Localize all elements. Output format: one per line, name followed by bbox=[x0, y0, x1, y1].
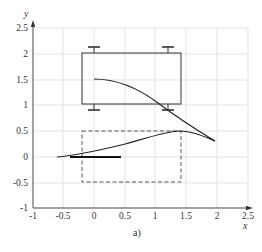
y-tick: -1 bbox=[20, 203, 28, 213]
y-tick: 2.5 bbox=[16, 23, 28, 33]
y-axis-label: y bbox=[23, 8, 29, 19]
x-tick: 1 bbox=[153, 211, 158, 221]
y-tick: 1 bbox=[23, 100, 28, 110]
y-tick-labels: 2.5 2 1.5 1 0.5 0 -0.5 -1 bbox=[13, 23, 28, 213]
lower-trajectory bbox=[57, 131, 215, 157]
y-tick: 0 bbox=[23, 152, 28, 162]
y-tick: -0.5 bbox=[13, 178, 28, 188]
x-tick: 0.5 bbox=[119, 211, 131, 221]
upper-trajectory bbox=[94, 79, 215, 141]
x-tick: -1 bbox=[29, 211, 37, 221]
figure-caption: a) bbox=[133, 227, 141, 239]
x-axis-label: x bbox=[242, 220, 248, 231]
x-tick-labels: -1 -0.5 0 0.5 1 1.5 2 2.5 bbox=[29, 211, 254, 221]
x-tick: 0 bbox=[92, 211, 97, 221]
diagram: 2.5 2 1.5 1 0.5 0 -0.5 -1 -1 -0.5 0 0.5 … bbox=[0, 0, 262, 252]
x-tick: -0.5 bbox=[55, 211, 70, 221]
y-tick: 0.5 bbox=[16, 126, 28, 136]
y-tick: 1.5 bbox=[16, 75, 28, 85]
x-tick: 1.5 bbox=[180, 211, 192, 221]
x-tick: 2 bbox=[215, 211, 220, 221]
y-tick: 2 bbox=[23, 49, 28, 59]
grid bbox=[33, 28, 248, 208]
